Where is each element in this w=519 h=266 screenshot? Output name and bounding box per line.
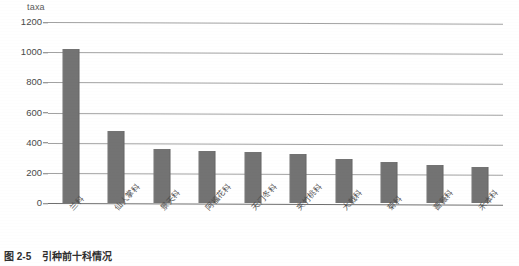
y-axis-unit-label: taxa (27, 2, 45, 12)
y-axis-tick-label: 1000 (21, 47, 42, 57)
bar-slot (412, 22, 458, 203)
figure-caption: 图 2-5引种前十科情况 (4, 251, 112, 263)
y-axis-tick-label: 400 (26, 138, 42, 148)
bar-slot (94, 22, 140, 203)
bar[interactable] (153, 149, 170, 203)
bar-slot (276, 22, 322, 203)
x-axis-label-slot: 景天科 (139, 205, 185, 245)
bar-slot (458, 22, 504, 203)
bar-slot (367, 22, 413, 203)
x-axis-label-slot: 仙人掌科 (94, 205, 140, 245)
x-axis-label-slot: 夹竹桃科 (276, 205, 322, 245)
x-axis-label-slot: 天门冬科 (230, 205, 276, 245)
bar-slot (321, 22, 367, 203)
bar-slot (139, 22, 185, 203)
plot-area: 020040060080010001200 (48, 22, 503, 203)
figure-container: taxa 020040060080010001200 兰科仙人掌科景天科阿福花科… (0, 0, 519, 266)
bar[interactable] (108, 131, 125, 203)
x-axis-label-slot: 兰科 (48, 205, 94, 245)
x-axis-labels-group: 兰科仙人掌科景天科阿福花科天门冬科夹竹桃科大戟科菊科蔷薇科禾本科 (48, 205, 503, 245)
x-axis-label-slot: 禾本科 (458, 205, 504, 245)
bar-slot (185, 22, 231, 203)
x-axis-label-slot: 菊科 (367, 205, 413, 245)
x-axis-label-slot: 阿福花科 (185, 205, 231, 245)
x-axis-label-slot: 蔷薇科 (412, 205, 458, 245)
x-axis-label-slot: 大戟科 (321, 205, 367, 245)
y-axis-tick-label: 600 (26, 108, 42, 118)
y-axis-tick-label: 1200 (21, 17, 42, 27)
bar-slot (230, 22, 276, 203)
bar[interactable] (62, 49, 79, 203)
y-axis-tick-label: 0 (37, 198, 42, 208)
bar-slot (48, 22, 94, 203)
figure-caption-number: 图 2-5 (4, 251, 31, 262)
y-axis-tick-label: 200 (26, 168, 42, 178)
y-axis-tick-label: 800 (26, 78, 42, 88)
bars-group (48, 22, 503, 203)
figure-caption-text: 引种前十科情况 (42, 251, 112, 262)
